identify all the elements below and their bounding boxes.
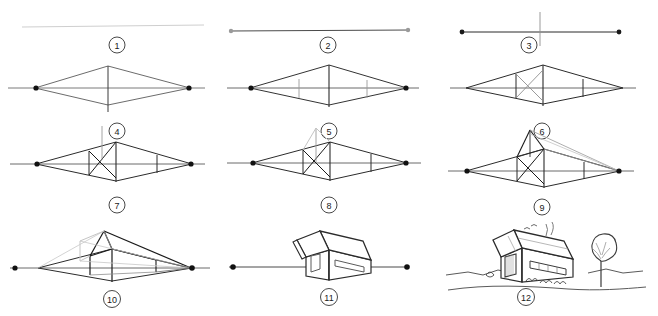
panel-1-artwork	[22, 25, 204, 27]
vanishing-point-right	[189, 265, 195, 271]
panel-8: 8	[219, 120, 438, 225]
vanishing-point-right	[406, 28, 410, 32]
vanishing-point-right	[188, 161, 193, 166]
panel-9-artwork	[448, 130, 634, 188]
ridge-line	[104, 231, 191, 268]
panel-6-artwork	[450, 65, 636, 106]
panel-10-artwork	[10, 231, 210, 282]
panel-number: 12	[521, 293, 531, 303]
panel-8-artwork	[227, 128, 421, 181]
panel-8-number-badge: 8	[321, 197, 337, 213]
vanishing-point-right	[186, 85, 191, 90]
vanishing-point-left	[464, 168, 469, 173]
gable-left	[517, 130, 530, 157]
panel-number: 2	[325, 41, 330, 51]
vanishing-point-left	[34, 161, 39, 166]
vanishing-point-right	[403, 85, 408, 90]
panel-number: 1	[114, 41, 119, 51]
diagonal-b	[89, 142, 116, 175]
panel-7: 7	[0, 120, 219, 225]
panel-12-artwork	[446, 222, 646, 290]
chimney-smoke	[546, 224, 548, 236]
panel-number: 10	[107, 295, 117, 305]
panel-7-number-badge: 7	[109, 197, 125, 213]
vanishing-point-left	[33, 85, 38, 90]
panel-number: 11	[324, 293, 333, 303]
panel-10: 10	[0, 215, 219, 316]
panel-number: 7	[114, 201, 119, 211]
shrub-icon	[554, 282, 566, 285]
vanishing-point-left	[460, 30, 465, 35]
vanishing-point-right	[403, 160, 408, 165]
house-door	[505, 254, 516, 277]
bird-icon	[524, 228, 530, 230]
diagram-sheet: 1 2 3	[0, 0, 658, 316]
panel-12: 12	[438, 215, 657, 316]
house-door	[311, 254, 320, 272]
shrub-icon	[540, 281, 552, 284]
panel-number: 8	[326, 201, 331, 211]
panel-12-number-badge: 12	[518, 289, 535, 306]
vanishing-point-right	[616, 168, 621, 173]
panel-10-number-badge: 10	[104, 291, 121, 308]
panel-3-artwork	[460, 12, 622, 46]
vanishing-point-left	[229, 29, 233, 33]
panel-5-artwork	[227, 65, 419, 107]
gable-right	[316, 128, 330, 142]
panel-7-artwork	[10, 126, 205, 182]
panel-9: 9	[438, 120, 657, 225]
panel-9-number-badge: 9	[534, 199, 550, 215]
panel-1-number-badge: 1	[109, 37, 125, 53]
vanishing-point-left	[250, 160, 255, 165]
vanishing-point-right	[617, 30, 622, 35]
panel-11-artwork	[229, 231, 410, 280]
ground-line	[448, 286, 646, 290]
panel-number: 9	[539, 203, 544, 213]
vanishing-point-left	[12, 265, 17, 270]
panel-11-number-badge: 11	[321, 289, 338, 306]
panel-11: 11	[219, 215, 438, 316]
panel-2-artwork	[229, 28, 410, 33]
panel-number: 3	[526, 41, 531, 51]
panel-3-number-badge: 3	[521, 37, 537, 53]
ground-hill-right	[588, 269, 643, 273]
bird-icon	[531, 225, 537, 227]
panel-4-artwork	[8, 66, 205, 112]
vanishing-point-right	[404, 264, 410, 270]
diagonal-b	[516, 70, 543, 98]
vanishing-point-left	[248, 85, 253, 90]
vanishing-point-left	[230, 264, 236, 270]
panel-2-number-badge: 2	[320, 37, 336, 53]
